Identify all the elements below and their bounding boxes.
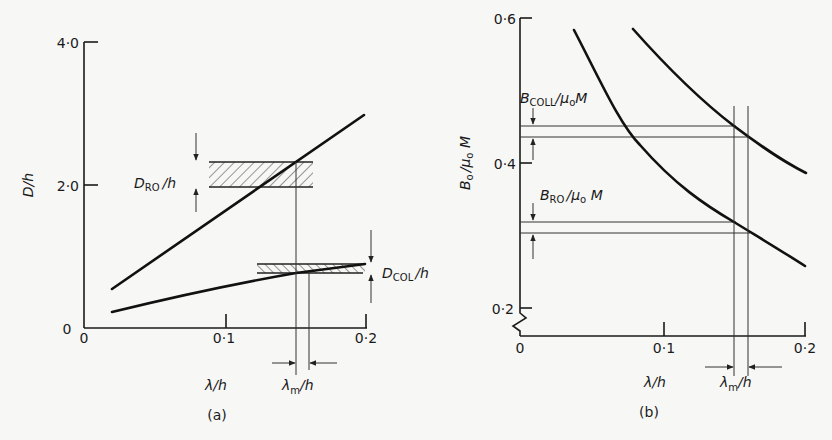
panel-a-xtick-0-2: 0·2 bbox=[355, 330, 377, 346]
d-col-label: DCOL/h bbox=[382, 265, 429, 283]
panel-a-xlabel: λ/h bbox=[204, 377, 227, 393]
panel-a-caption: (a) bbox=[207, 407, 227, 423]
panel-a-ytick-4: 4·0 bbox=[57, 35, 79, 51]
panel-a-xtick-0: 0 bbox=[80, 330, 89, 346]
panel-b-ylabel: Bo/μo M bbox=[457, 136, 475, 190]
b-coll-label: BCOLL/μoM bbox=[520, 90, 587, 108]
panel-b-axes bbox=[513, 18, 806, 336]
panel-a-ytick-2: 2·0 bbox=[57, 178, 79, 194]
panel-a-lambda-m-label: λm/h bbox=[281, 377, 314, 396]
panel-a-xtick-0-1: 0·1 bbox=[213, 330, 235, 346]
panel-a: 0 2·0 4·0 0 0·1 0·2 D/h DRO/h DCOL/h bbox=[20, 35, 429, 423]
b-coll-curve bbox=[633, 29, 806, 173]
panel-b-ytick-0-2: 0·2 bbox=[492, 301, 514, 317]
figure: 0 2·0 4·0 0 0·1 0·2 D/h DRO/h DCOL/h bbox=[0, 0, 832, 440]
panel-b-xtick-0-1: 0·1 bbox=[653, 340, 675, 356]
panel-b-xtick-0: 0 bbox=[516, 340, 525, 356]
panel-b-caption: (b) bbox=[639, 404, 659, 420]
b-ro-label: BRO/μo M bbox=[540, 187, 603, 205]
d-ro-line bbox=[112, 115, 364, 289]
panel-b-xlabel: λ/h bbox=[643, 374, 666, 390]
panel-b: 0·6 0·4 0·2 0 0·1 0·2 Bo/μo M BCOLL/μoM … bbox=[457, 11, 816, 420]
panel-b-ytick-0-4: 0·4 bbox=[494, 156, 516, 172]
panel-a-ytick-0: 0 bbox=[63, 321, 72, 337]
panel-b-xtick-0-2: 0·2 bbox=[794, 340, 816, 356]
panel-b-ytick-0-6: 0·6 bbox=[494, 11, 516, 27]
panel-b-lambda-m-label: λm/h bbox=[719, 374, 752, 393]
d-ro-label: DRO/h bbox=[134, 175, 176, 193]
panel-a-ylabel: D/h bbox=[20, 173, 36, 197]
d-ro-band bbox=[209, 162, 313, 187]
b-ro-curve bbox=[574, 30, 805, 266]
